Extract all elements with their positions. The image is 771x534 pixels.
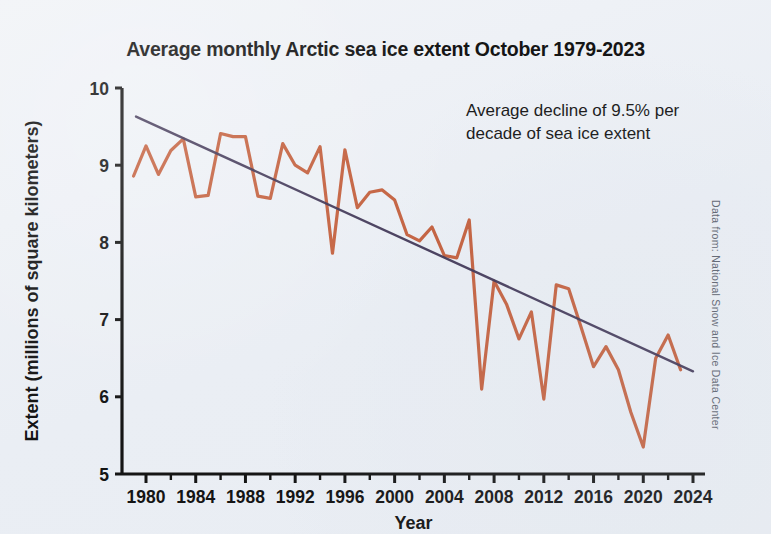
x-tick-label: 1992 (276, 487, 315, 507)
x-tick-label: 1996 (325, 487, 364, 507)
y-tick-label: 6 (99, 387, 109, 407)
trend-line-series (136, 117, 693, 372)
x-tick-label: 2012 (524, 487, 563, 507)
x-tick-label: 2016 (574, 487, 613, 507)
source-attribution: Data from: National Snow and Ice Data Ce… (710, 200, 722, 430)
chart-figure: Average monthly Arctic sea ice extent Oc… (0, 0, 771, 534)
x-tick-label: 1980 (127, 487, 166, 507)
x-tick-label: 2008 (475, 487, 514, 507)
y-axis-title: Extent (millions of square kilometers) (22, 120, 42, 441)
x-tick-label: 2004 (425, 487, 464, 507)
y-tick-label: 8 (99, 233, 109, 253)
x-tick-label: 1984 (176, 487, 215, 507)
x-tick-label: 2024 (674, 487, 713, 507)
y-tick-label: 7 (99, 310, 109, 330)
sea-ice-extent-series (134, 134, 681, 447)
x-tick-label: 1988 (226, 487, 265, 507)
x-tick-label: 2000 (375, 487, 414, 507)
x-tick-label: 2020 (624, 487, 663, 507)
chart-plot-area: 5678910198019841988199219962000200420082… (0, 0, 771, 534)
y-tick-label: 10 (90, 79, 110, 99)
x-axis-title: Year (394, 513, 432, 533)
trend-annotation: Average decline of 9.5% per decade of se… (466, 100, 706, 145)
y-tick-label: 9 (99, 156, 109, 176)
y-tick-label: 5 (99, 465, 109, 485)
chart-render-group: 5678910198019841988199219962000200420082… (22, 79, 713, 534)
